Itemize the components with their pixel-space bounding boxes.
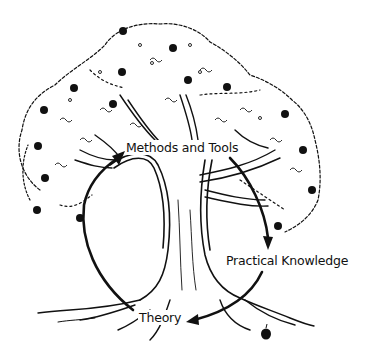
trunk [110,154,240,300]
apple [184,76,192,84]
apple [34,142,42,150]
ground-apple [261,324,271,340]
apple [109,100,117,108]
arrowhead-down [263,236,273,250]
apple [119,27,127,35]
label-methods-and-tools: Methods and Tools [125,140,239,155]
cycle-arrows [83,158,268,320]
apple [274,222,282,230]
apple [41,174,49,182]
apple [40,106,48,114]
tree-illustration [0,0,366,357]
apple [281,110,289,118]
arrow-theory-to-methods [83,158,133,310]
label-theory: Theory [138,310,182,325]
canopy [19,24,320,232]
apple [169,44,177,52]
apples [33,27,316,230]
arrowheads [112,151,273,325]
apple [33,206,41,214]
apple [223,83,231,91]
apple [70,84,78,92]
arrow-practical-to-theory [194,272,262,320]
apple [308,186,316,194]
label-practical-knowledge: Practical Knowledge [225,253,349,268]
tree-cycle-diagram: Methods and Tools Practical Knowledge Th… [0,0,366,357]
apple [118,68,126,76]
apple [299,146,307,154]
arrowhead-left [186,314,199,325]
